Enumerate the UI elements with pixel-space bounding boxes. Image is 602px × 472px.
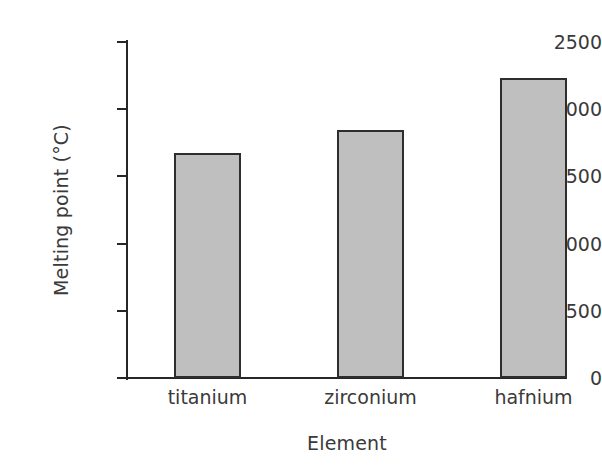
x-axis-tick-label: titanium <box>168 386 248 408</box>
y-axis-tick <box>117 41 127 43</box>
y-axis-label: Melting point (°C) <box>46 42 76 378</box>
y-axis-tick <box>117 243 127 245</box>
y-axis-tick <box>117 108 127 110</box>
x-axis-tick-label: hafnium <box>494 386 572 408</box>
y-axis-line <box>126 40 128 380</box>
y-axis-tick <box>117 175 127 177</box>
bar-hafnium <box>500 78 567 378</box>
y-axis-tick <box>117 310 127 312</box>
x-axis-label: Element <box>127 432 567 454</box>
y-axis-tick <box>117 377 127 379</box>
bar-chart: 05001000150020002500 titaniumzirconiumha… <box>0 0 602 472</box>
x-axis-tick-label: zirconium <box>324 386 417 408</box>
bar-zirconium <box>337 130 404 378</box>
bar-titanium <box>174 153 241 378</box>
y-axis-tick-label: 2500 <box>492 31 602 53</box>
